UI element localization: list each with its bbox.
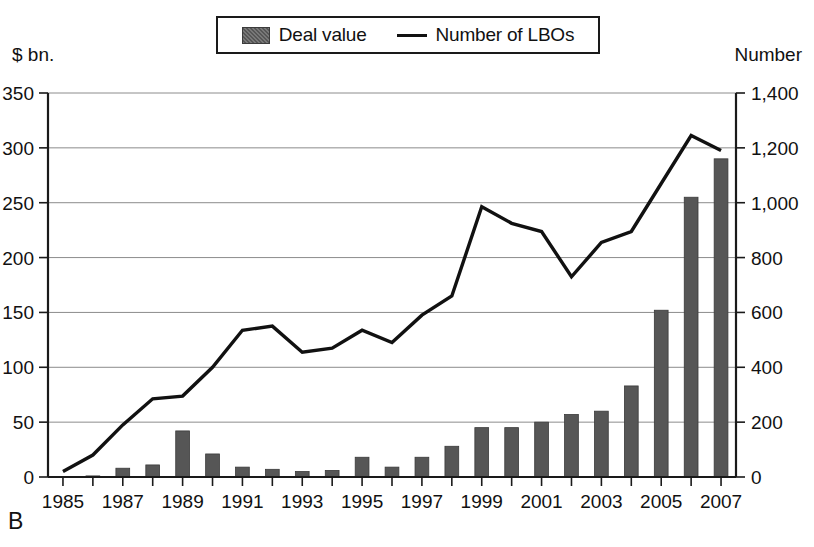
right-axis-label: 0	[751, 467, 762, 488]
axis-labels-group: 05010015020025030035002004006008001,0001…	[2, 83, 798, 512]
left-axis-label: 250	[2, 193, 34, 214]
right-axis-label: 1,200	[751, 138, 799, 159]
bar-1997	[415, 457, 429, 477]
gridlines-group	[48, 93, 736, 422]
bar-2000	[505, 428, 519, 477]
chart-figure: Deal value Number of LBOs $ bn. Number B…	[0, 0, 814, 547]
bar-2003	[595, 411, 609, 477]
x-axis-label: 2003	[580, 491, 622, 512]
bar-2005	[654, 310, 668, 477]
left-axis-label: 200	[2, 248, 34, 269]
left-axis-label: 300	[2, 138, 34, 159]
bar-1991	[236, 467, 250, 477]
x-axis-label: 1985	[42, 491, 84, 512]
bar-2004	[624, 386, 638, 477]
left-axis-label: 150	[2, 302, 34, 323]
x-axis-label: 2001	[520, 491, 562, 512]
right-axis-label: 400	[751, 357, 783, 378]
x-axis-label: 1997	[401, 491, 443, 512]
right-axis-label: 1,400	[751, 83, 799, 104]
right-axis-label: 800	[751, 248, 783, 269]
left-axis-label: 100	[2, 357, 34, 378]
line-series-number-of-lbos	[63, 136, 721, 472]
axes-group	[39, 93, 745, 486]
right-axis-label: 600	[751, 302, 783, 323]
bar-1995	[355, 457, 369, 477]
x-axis-label: 1995	[341, 491, 383, 512]
x-axis-label: 2005	[640, 491, 682, 512]
bar-1992	[265, 469, 279, 477]
bar-1999	[475, 428, 489, 477]
plot-area: 05010015020025030035002004006008001,0001…	[0, 0, 814, 547]
bar-2002	[565, 414, 579, 477]
x-axis-label: 1987	[102, 491, 144, 512]
x-axis-label: 1999	[461, 491, 503, 512]
x-axis-label: 2007	[700, 491, 742, 512]
left-axis-label: 50	[13, 412, 34, 433]
right-axis-label: 1,000	[751, 193, 799, 214]
bar-1998	[445, 446, 459, 477]
bar-1996	[385, 467, 399, 477]
line-series-group	[63, 136, 721, 472]
bar-2007	[714, 159, 728, 477]
bar-2006	[684, 197, 698, 477]
right-axis-label: 200	[751, 412, 783, 433]
bar-2001	[535, 422, 549, 477]
chart-svg: 05010015020025030035002004006008001,0001…	[0, 0, 814, 547]
bar-1987	[116, 468, 130, 477]
left-axis-label: 350	[2, 83, 34, 104]
x-axis-label: 1991	[221, 491, 263, 512]
bar-1988	[146, 465, 160, 477]
x-axis-label: 1989	[161, 491, 203, 512]
bars-group	[56, 159, 728, 477]
bar-1989	[176, 431, 190, 477]
left-axis-label: 0	[23, 467, 34, 488]
bar-1990	[206, 454, 220, 477]
x-axis-label: 1993	[281, 491, 323, 512]
